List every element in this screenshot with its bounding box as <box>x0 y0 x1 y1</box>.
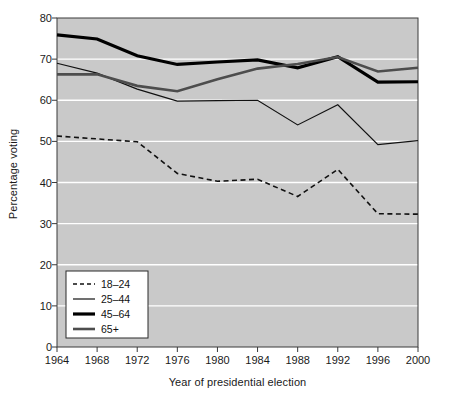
x-axis-tick-label: 1976 <box>165 354 189 366</box>
x-axis-tick-label: 1964 <box>45 354 69 366</box>
x-axis-tick-label: 1996 <box>366 354 390 366</box>
x-axis-label: Year of presidential election <box>57 376 418 388</box>
x-axis-tick-label: 1972 <box>125 354 149 366</box>
plot-canvas: 18–2425–4445–6465+ <box>0 0 450 404</box>
legend-label: 65+ <box>101 323 119 335</box>
legend: 18–2425–4445–6465+ <box>66 271 148 338</box>
x-axis-tick-label: 1992 <box>326 354 350 366</box>
x-axis-ticks <box>57 347 418 352</box>
legend-label: 18–24 <box>101 278 130 290</box>
x-axis-tick-label: 1988 <box>285 354 309 366</box>
legend-label: 45–64 <box>101 308 130 320</box>
y-axis-ticks <box>52 18 57 347</box>
x-axis-tick-label: 2000 <box>406 354 430 366</box>
x-axis-tick-label: 1968 <box>85 354 109 366</box>
x-axis-tick-label: 1984 <box>245 354 269 366</box>
legend-label: 25–44 <box>101 293 130 305</box>
chart-figure: Percentage voting 01020304050607080 18–2… <box>0 0 450 404</box>
x-axis-tick-label: 1980 <box>205 354 229 366</box>
